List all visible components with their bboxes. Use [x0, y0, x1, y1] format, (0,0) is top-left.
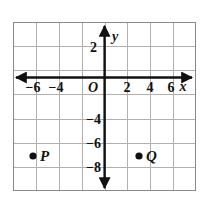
point-P-dot — [29, 152, 36, 159]
x-tick-label-6: 6 — [168, 80, 175, 95]
y-tick-label-neg6: −6 — [86, 136, 101, 151]
coordinate-plane-figure: x y O −6 −4 2 4 6 2 −4 −6 −8 P Q — [0, 0, 211, 200]
y-tick-label-neg4: −4 — [86, 112, 101, 127]
y-axis-label: y — [110, 29, 119, 44]
point-Q-label: Q — [146, 148, 157, 164]
point-Q-dot — [135, 152, 142, 159]
x-tick-label-4: 4 — [147, 80, 154, 95]
y-tick-label-neg8: −8 — [86, 160, 101, 175]
point-P-label: P — [40, 148, 50, 164]
x-tick-label-neg6: −6 — [26, 80, 41, 95]
x-tick-label-neg4: −4 — [49, 80, 64, 95]
y-tick-label-2: 2 — [90, 40, 97, 55]
x-axis-label: x — [179, 79, 187, 94]
origin-label: O — [88, 80, 98, 95]
x-tick-label-2: 2 — [124, 80, 131, 95]
